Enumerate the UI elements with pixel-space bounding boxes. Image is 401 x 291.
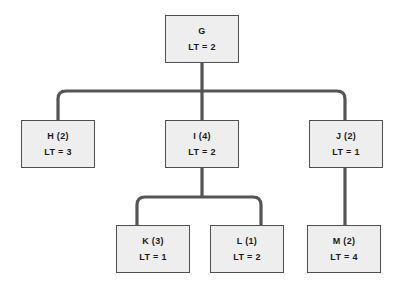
- node-i[interactable]: I (4) LT = 2: [165, 120, 239, 168]
- edge-i-to-k: [137, 197, 202, 225]
- node-g[interactable]: G LT = 2: [165, 15, 239, 63]
- node-k-metric: LT = 1: [139, 253, 166, 262]
- node-h-label: H (2): [47, 132, 69, 141]
- node-m[interactable]: M (2) LT = 4: [307, 225, 381, 273]
- node-k[interactable]: K (3) LT = 1: [116, 225, 190, 273]
- node-i-label: I (4): [193, 132, 211, 141]
- edge-i-to-l: [202, 197, 261, 225]
- node-m-label: M (2): [333, 237, 356, 246]
- node-k-label: K (3): [142, 237, 164, 246]
- node-h-metric: LT = 3: [44, 148, 71, 157]
- node-j[interactable]: J (2) LT = 1: [309, 120, 383, 168]
- tree-diagram: G LT = 2 H (2) LT = 3 I (4) LT = 2 J (2)…: [0, 0, 401, 291]
- node-g-metric: LT = 2: [188, 43, 215, 52]
- edge-g-to-j: [202, 91, 345, 120]
- node-m-metric: LT = 4: [330, 253, 357, 262]
- node-l-label: L (1): [237, 237, 257, 246]
- node-g-label: G: [198, 27, 205, 36]
- node-l-metric: LT = 2: [233, 253, 260, 262]
- node-j-label: J (2): [336, 132, 356, 141]
- node-h[interactable]: H (2) LT = 3: [21, 120, 95, 168]
- node-l[interactable]: L (1) LT = 2: [210, 225, 284, 273]
- node-i-metric: LT = 2: [188, 148, 215, 157]
- node-j-metric: LT = 1: [332, 148, 359, 157]
- edge-g-to-h: [58, 91, 202, 120]
